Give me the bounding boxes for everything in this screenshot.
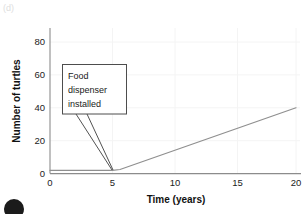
callout-line-3: installed xyxy=(68,99,101,109)
series-line-turtle-population xyxy=(50,108,296,171)
x-tick-labels: 0 5 10 15 20 xyxy=(47,177,301,188)
x-axis-title: Time (years) xyxy=(147,194,206,205)
callout-leader-lines xyxy=(76,114,113,170)
y-tick-label: 20 xyxy=(34,135,45,146)
y-tick-label: 80 xyxy=(34,36,45,47)
x-tick-label: 15 xyxy=(232,177,243,188)
x-tick-label: 5 xyxy=(110,177,115,188)
y-axis-title: Number of turtles xyxy=(11,59,22,143)
y-tick-label: 0 xyxy=(40,168,45,179)
callout-line-2: dispenser xyxy=(68,85,107,95)
y-tick-label: 60 xyxy=(34,69,45,80)
line-chart: 0 20 40 60 80 0 5 10 15 20 Time (years) … xyxy=(0,0,305,214)
y-tick-labels: 0 20 40 60 80 xyxy=(34,36,45,179)
x-tick-label: 20 xyxy=(291,177,302,188)
x-tick-label: 0 xyxy=(47,177,52,188)
figure-panel: (d) 0 20 40 60 80 0 5 10 xyxy=(0,0,305,214)
callout-line-1: Food xyxy=(68,71,89,81)
x-tick-label: 10 xyxy=(170,177,181,188)
y-tick-label: 40 xyxy=(34,102,45,113)
